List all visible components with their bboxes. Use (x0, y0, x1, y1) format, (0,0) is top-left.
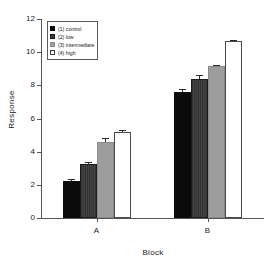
x-axis-line (41, 218, 264, 219)
y-tick-label: 0 (31, 213, 35, 222)
bar (97, 142, 114, 218)
legend-item: (4) high (50, 49, 94, 56)
error-bar-cap (85, 162, 92, 163)
y-tick-label: 4 (31, 147, 35, 156)
legend-item: (3) intermediate (50, 41, 94, 48)
error-bar-cap (213, 65, 220, 66)
error-bar-cap (119, 130, 126, 131)
x-group-label: A (94, 226, 99, 235)
error-bar-cap (68, 179, 75, 180)
y-tick-label: 12 (26, 14, 35, 23)
error-bar-cap (196, 75, 203, 76)
legend-item: (2) low (50, 33, 94, 40)
legend: (1) control(2) low(3) intermediate(4) hi… (47, 21, 98, 60)
bar (208, 66, 225, 218)
y-axis-label-text: Response (7, 90, 16, 128)
y-tick-label: 2 (31, 180, 35, 189)
y-tick-label: 6 (31, 114, 35, 123)
legend-label: (2) low (58, 34, 74, 40)
error-bar-cap (230, 40, 237, 41)
x-tick-mark (97, 218, 98, 222)
legend-label: (4) high (58, 50, 76, 56)
bar (191, 79, 208, 218)
x-group-label: B (205, 226, 210, 235)
y-axis-label: Response (2, 0, 20, 218)
legend-swatch (50, 50, 55, 55)
error-bar-cap (102, 138, 109, 139)
legend-swatch (50, 34, 55, 39)
bar (174, 92, 191, 218)
x-tick-mark (208, 218, 209, 222)
error-bar-cap (179, 89, 186, 90)
legend-swatch (50, 42, 55, 47)
legend-label: (1) control (58, 26, 81, 32)
bar (80, 164, 97, 218)
bar (114, 132, 131, 218)
y-tick-label: 8 (31, 80, 35, 89)
y-tick-mark (37, 218, 41, 219)
x-axis-label: Block (38, 248, 268, 257)
legend-swatch (50, 26, 55, 31)
bar-chart-figure: Response 024681012 AB Block (1) control(… (0, 0, 275, 270)
bar (225, 41, 242, 218)
y-tick-label: 10 (26, 47, 35, 56)
legend-label: (3) intermediate (58, 42, 94, 48)
bar (63, 181, 80, 218)
legend-item: (1) control (50, 25, 94, 32)
